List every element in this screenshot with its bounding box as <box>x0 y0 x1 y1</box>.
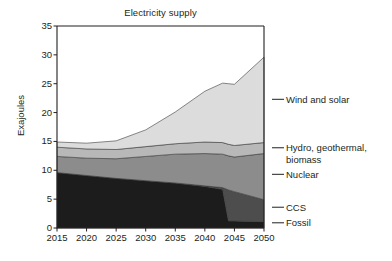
electricity-supply-chart: Electricity supply Exajoules 05101520253… <box>0 0 392 261</box>
area-series <box>57 57 264 149</box>
plot-area <box>0 0 392 261</box>
